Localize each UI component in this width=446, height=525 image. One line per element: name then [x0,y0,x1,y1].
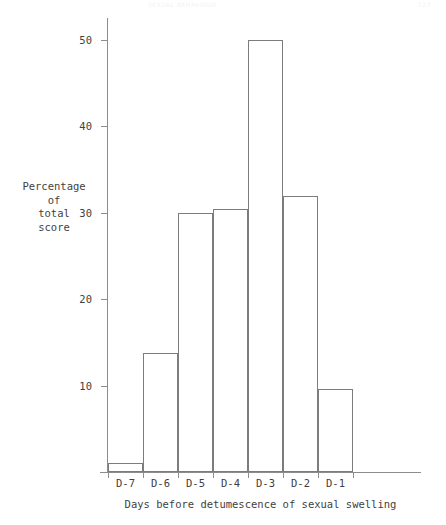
bar [283,196,318,472]
bar [248,40,283,472]
bar [143,353,178,472]
chart-page: SEXUAL BEHAVIOUR 127 1020304050 D-7D-6D-… [0,0,446,525]
histogram-plot: 1020304050 D-7D-6D-5D-4D-3D-2D-1 Percent… [0,0,446,525]
y-axis-title: Percentage of total score [8,180,100,234]
bar [108,463,143,472]
x-axis-title: Days before detumescence of sexual swell… [100,498,421,510]
bar [213,209,248,472]
bar [318,389,353,472]
bar-series [0,0,446,525]
x-axis-tick-label: D-1 [314,477,358,489]
bar [178,213,213,472]
